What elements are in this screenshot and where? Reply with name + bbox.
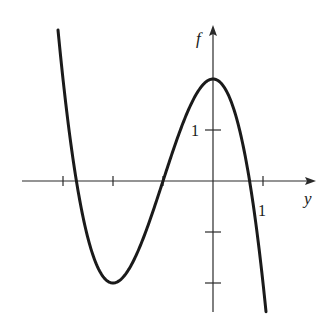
x-axis bbox=[22, 176, 316, 186]
x-tick-label-1: 1 bbox=[258, 202, 266, 219]
function-graph: f y 1 1 bbox=[0, 0, 335, 319]
y-axis-label: y bbox=[302, 189, 312, 208]
function-curve bbox=[58, 30, 266, 312]
f-axis-label: f bbox=[196, 29, 203, 48]
f-axis bbox=[205, 25, 221, 312]
f-tick-label-1: 1 bbox=[191, 122, 199, 139]
